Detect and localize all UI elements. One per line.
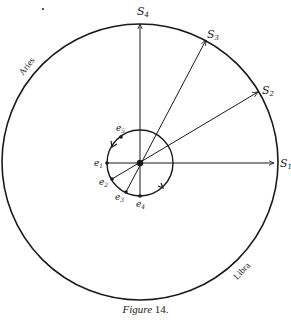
label-e3: e3 xyxy=(115,192,124,203)
point-e4 xyxy=(138,194,142,198)
figure-14-diagram: S4 S3 S2 S1 e5 e1 e2 e3 e4 Aries Libra xyxy=(0,0,291,322)
label-S3: S3 xyxy=(207,28,220,42)
line-e2-S2 xyxy=(112,92,258,179)
label-e1: e1 xyxy=(94,158,103,169)
point-e5 xyxy=(119,135,123,139)
label-S1: S1 xyxy=(280,157,291,171)
point-e3 xyxy=(124,190,128,194)
point-e2 xyxy=(110,177,114,181)
label-e5: e5 xyxy=(116,123,125,134)
caption-number: 14. xyxy=(155,303,169,315)
label-S2: S2 xyxy=(262,84,275,98)
figure-caption: Figure 14. xyxy=(0,303,291,315)
stray-mark xyxy=(42,8,44,10)
caption-word: Figure xyxy=(122,303,152,315)
label-e4: e4 xyxy=(136,199,145,210)
direction-arrow-icon xyxy=(158,183,163,188)
label-e2: e2 xyxy=(99,177,108,188)
label-S4: S4 xyxy=(137,5,149,19)
point-e1 xyxy=(105,161,109,165)
line-e3-S3 xyxy=(126,40,206,192)
center-dot xyxy=(137,160,143,166)
